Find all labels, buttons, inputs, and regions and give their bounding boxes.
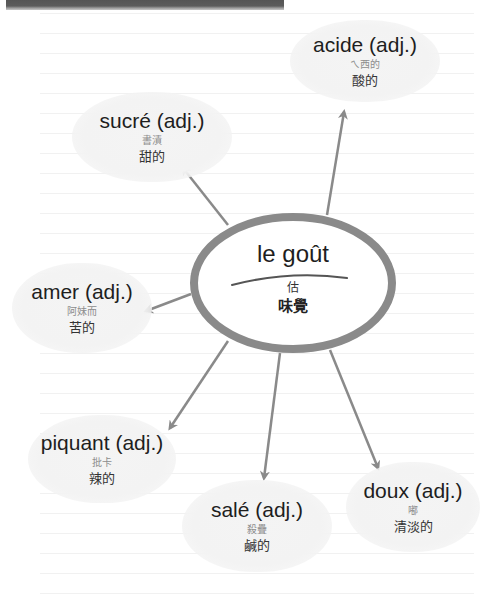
- node-word: sucré (adj.): [99, 109, 204, 133]
- node-translation: 酸的: [352, 72, 378, 89]
- node-piquant[interactable]: piquant (adj.) 批卡 辣的: [28, 415, 176, 503]
- node-phonetic: 嘟: [408, 504, 418, 518]
- node-phonetic: 阿妹而: [67, 305, 97, 319]
- node-word: salé (adj.): [211, 498, 303, 522]
- arrow-to-acide: [327, 112, 344, 215]
- node-word: doux (adj.): [363, 479, 462, 503]
- center-word: le goût: [193, 240, 393, 268]
- node-translation: 苦的: [69, 319, 95, 336]
- node-phonetic: 書漬: [142, 134, 162, 148]
- node-amer[interactable]: amer (adj.) 阿妹而 苦的: [12, 263, 152, 353]
- node-phonetic: 批卡: [92, 456, 112, 470]
- node-word: amer (adj.): [31, 280, 133, 304]
- node-sale[interactable]: salé (adj.) 殺疊 鹹的: [182, 480, 332, 572]
- center-translation: 味覺: [193, 296, 393, 316]
- mind-map-page: le goût 估 味覺 acide (adj.) ㄟ西的 酸的 sucré (…: [0, 0, 488, 600]
- arrow-to-amer: [146, 294, 191, 311]
- node-acide[interactable]: acide (adj.) ㄟ西的 酸的: [290, 20, 440, 102]
- node-phonetic: ㄟ西的: [350, 58, 380, 72]
- node-word: acide (adj.): [313, 33, 417, 57]
- arrow-to-piquant: [170, 341, 228, 428]
- node-translation: 辣的: [89, 470, 115, 487]
- node-translation: 鹹的: [244, 537, 270, 554]
- node-translation: 清淡的: [394, 518, 433, 535]
- node-phonetic: 殺疊: [247, 523, 267, 537]
- node-sucre[interactable]: sucré (adj.) 書漬 甜的: [72, 92, 232, 182]
- center-phonetic: 估: [193, 280, 393, 296]
- node-word: piquant (adj.): [41, 431, 164, 455]
- center-node[interactable]: le goût 估 味覺: [193, 240, 393, 316]
- arrow-to-sale: [264, 353, 280, 478]
- arrow-to-doux: [330, 350, 378, 468]
- node-translation: 甜的: [139, 148, 165, 165]
- node-doux[interactable]: doux (adj.) 嘟 清淡的: [346, 462, 480, 552]
